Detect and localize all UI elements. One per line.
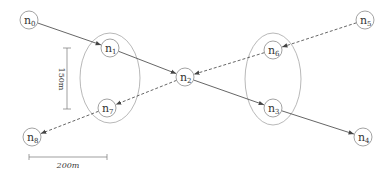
edges <box>38 23 357 134</box>
edge-n2-n7 <box>116 80 177 104</box>
vertical-scale-label: 150m <box>57 68 66 91</box>
horizontal-scale-bar: 200m <box>29 154 107 170</box>
node-n1: n1 <box>101 39 119 57</box>
node-n2: n2 <box>176 68 194 86</box>
vertical-scale-bar: 150m <box>57 48 71 109</box>
edge-n0-n1 <box>38 23 102 45</box>
nodes: n0n1n2n3n4n5n6n7n8 <box>20 11 374 146</box>
node-n3: n3 <box>264 99 282 117</box>
edge-n5-n6 <box>282 23 356 47</box>
node-n4: n4 <box>354 128 372 146</box>
edge-n2-n3 <box>193 80 264 105</box>
node-n5: n5 <box>356 11 374 29</box>
edge-n6-n2 <box>194 53 264 75</box>
node-n0: n0 <box>20 11 38 29</box>
horizontal-scale-label: 200m <box>56 161 80 170</box>
node-n7: n7 <box>98 99 116 117</box>
network-diagram: n0n1n2n3n4n5n6n7n8 150m 200m <box>0 0 390 178</box>
edge-n3-n4 <box>282 111 354 134</box>
edge-n7-n8 <box>41 111 99 133</box>
node-n6: n6 <box>264 41 282 59</box>
node-n8: n8 <box>23 128 41 146</box>
edge-n1-n2 <box>118 51 176 73</box>
